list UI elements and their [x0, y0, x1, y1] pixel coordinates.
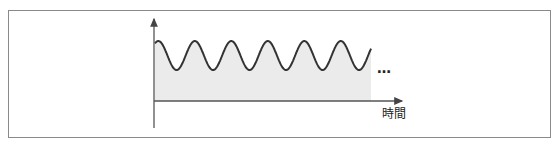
- x-axis-label: 時間: [382, 104, 406, 121]
- wave-diagram: [0, 0, 560, 154]
- continuation-ellipsis: …: [377, 60, 392, 76]
